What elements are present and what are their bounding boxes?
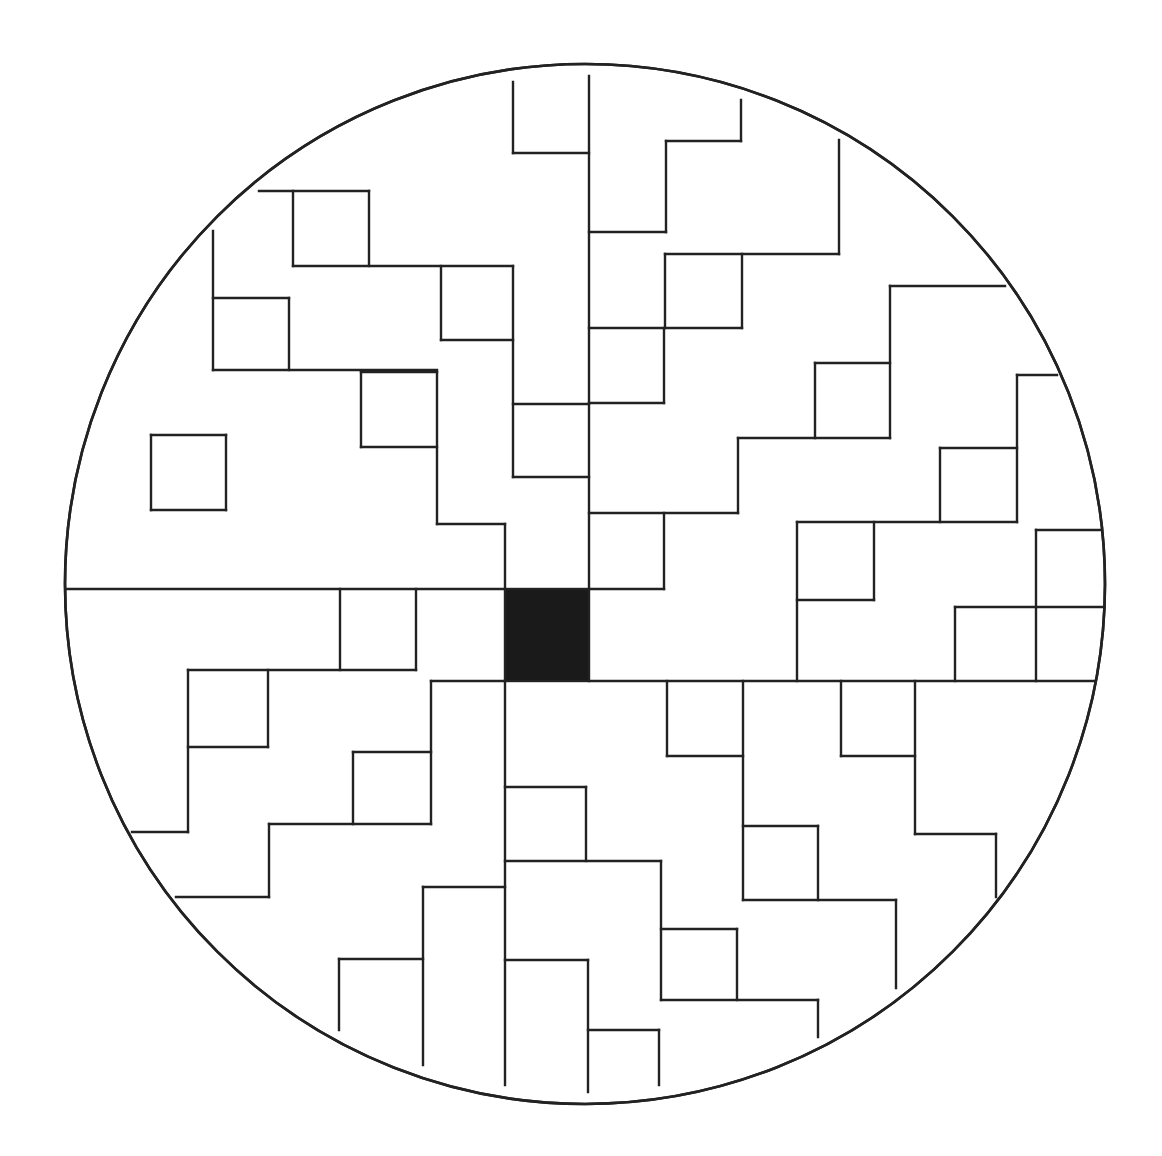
- center-black-square: [505, 589, 589, 681]
- diagram-canvas: [0, 0, 1162, 1156]
- circular-maze: [0, 0, 1162, 1156]
- outer-circle: [65, 64, 1105, 1104]
